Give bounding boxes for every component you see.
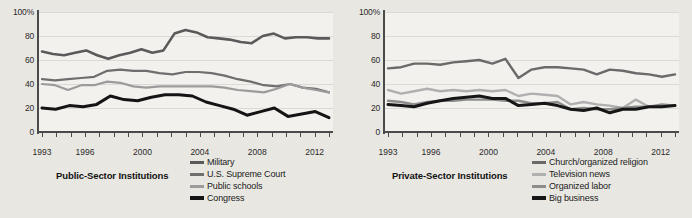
legend-color-swatch	[532, 173, 546, 176]
figure-root: Percentage saying “a great deal” or “qui…	[0, 0, 692, 218]
x-axis-tick-mark	[546, 133, 547, 137]
x-axis-tick-mark	[300, 133, 301, 137]
x-axis-tick-mark	[243, 133, 244, 137]
legend-color-swatch	[190, 161, 204, 164]
legend-item-label: U.S. Supreme Court	[207, 169, 285, 179]
x-axis-tick-mark	[589, 133, 590, 137]
series-line	[42, 30, 329, 59]
x-axis-tick-mark	[661, 133, 662, 137]
y-axis-tick-label: 0	[29, 127, 34, 137]
series-line	[388, 96, 675, 113]
sector-title-public: Public-Sector Institutions	[56, 170, 168, 181]
x-axis-tick-mark	[517, 133, 518, 137]
legend-item-label: Television news	[549, 169, 610, 179]
x-axis-tick-mark	[114, 133, 115, 137]
x-axis-tick-mark	[560, 133, 561, 137]
x-axis-tick-mark	[675, 133, 676, 137]
x-axis-tick-mark	[286, 133, 287, 137]
y-axis-tick-label: 20	[371, 103, 380, 113]
x-axis-tick-label: 2012	[305, 147, 324, 157]
series-lines-public	[38, 12, 333, 132]
x-axis-tick-mark	[329, 133, 330, 137]
y-axis-tick-label: 20	[25, 103, 34, 113]
legend-item[interactable]: Congress	[190, 192, 285, 204]
legend-item-label: Church/organized religion	[549, 157, 648, 167]
x-axis-tick-label: 1996	[422, 147, 441, 157]
y-axis-line-private	[383, 10, 385, 134]
y-axis-tick-label: 60	[25, 55, 34, 65]
x-axis-tick-mark	[200, 133, 201, 137]
legend-item[interactable]: Public schools	[190, 180, 285, 192]
legend-item[interactable]: Church/organized religion	[532, 156, 648, 168]
x-axis-tick-mark	[417, 133, 418, 137]
x-axis-tick-mark	[315, 133, 316, 137]
legend-item[interactable]: U.S. Supreme Court	[190, 168, 285, 180]
x-axis-tick-mark	[171, 133, 172, 137]
chart-panel-public-sector: Percentage saying “a great deal” or “qui…	[0, 0, 346, 218]
x-axis-tick-mark	[445, 133, 446, 137]
series-lines-private	[384, 12, 679, 132]
legend-item[interactable]: Big business	[532, 192, 648, 204]
series-line	[388, 59, 675, 78]
legend-item-label: Big business	[549, 193, 598, 203]
x-axis-tick-mark	[431, 133, 432, 137]
legend-private: Church/organized religionTelevision news…	[532, 156, 648, 204]
series-line	[42, 95, 329, 118]
x-axis-tick-mark	[272, 133, 273, 137]
x-axis-tick-mark	[532, 133, 533, 137]
x-axis-tick-mark	[56, 133, 57, 137]
x-axis-tick-mark	[603, 133, 604, 137]
x-axis-tick-mark	[214, 133, 215, 137]
legend-item[interactable]: Military	[190, 156, 285, 168]
x-axis-tick-label: 2000	[479, 147, 498, 157]
x-axis-tick-mark	[460, 133, 461, 137]
x-axis-tick-label: 2012	[651, 147, 670, 157]
plot-area-public: 020406080100% 199319962000200420082012	[38, 12, 333, 132]
legend-color-swatch	[190, 185, 204, 188]
x-axis-tick-mark	[474, 133, 475, 137]
y-axis-tick-label: 60	[371, 55, 380, 65]
x-axis-tick-mark	[388, 133, 389, 137]
x-axis-line-public	[37, 131, 333, 133]
y-axis-tick-label: 80	[25, 31, 34, 41]
y-axis-line-public	[37, 10, 39, 134]
x-axis-tick-mark	[157, 133, 158, 137]
x-axis-tick-mark	[632, 133, 633, 137]
x-axis-tick-mark	[42, 133, 43, 137]
x-axis-tick-mark	[142, 133, 143, 137]
legend-item-label: Military	[207, 157, 234, 167]
legend-item-label: Public schools	[207, 181, 262, 191]
y-axis-tick-label: 0	[375, 127, 380, 137]
x-axis-tick-mark	[99, 133, 100, 137]
series-line	[42, 82, 329, 93]
legend-item[interactable]: Television news	[532, 168, 648, 180]
legend-color-swatch	[190, 173, 204, 176]
legend-item-label: Organized labor	[549, 181, 611, 191]
x-axis-tick-label: 1993	[33, 147, 52, 157]
x-axis-tick-mark	[503, 133, 504, 137]
x-axis-line-private	[383, 131, 679, 133]
x-axis-tick-mark	[229, 133, 230, 137]
x-axis-tick-label: 1996	[76, 147, 95, 157]
chart-panel-private-sector: Percentage saying “a great deal” or “qui…	[346, 0, 692, 218]
legend-color-swatch	[190, 196, 204, 200]
series-line	[42, 70, 329, 93]
x-axis-tick-mark	[257, 133, 258, 137]
x-axis-tick-mark	[186, 133, 187, 137]
x-axis-tick-mark	[488, 133, 489, 137]
y-axis-tick-label: 100%	[13, 7, 34, 17]
legend-item[interactable]: Organized labor	[532, 180, 648, 192]
x-axis-tick-mark	[128, 133, 129, 137]
x-axis-tick-mark	[71, 133, 72, 137]
legend-color-swatch	[532, 196, 546, 200]
x-axis-tick-mark	[618, 133, 619, 137]
y-axis-tick-label: 80	[371, 31, 380, 41]
x-axis-tick-mark	[646, 133, 647, 137]
x-axis-tick-label: 1993	[379, 147, 398, 157]
legend-public: MilitaryU.S. Supreme CourtPublic schools…	[190, 156, 285, 204]
y-axis-tick-label: 100%	[359, 7, 380, 17]
y-axis-tick-label: 40	[371, 79, 380, 89]
x-axis-tick-mark	[575, 133, 576, 137]
plot-area-private: 020406080100% 199319962000200420082012	[384, 12, 679, 132]
x-axis-tick-mark	[402, 133, 403, 137]
